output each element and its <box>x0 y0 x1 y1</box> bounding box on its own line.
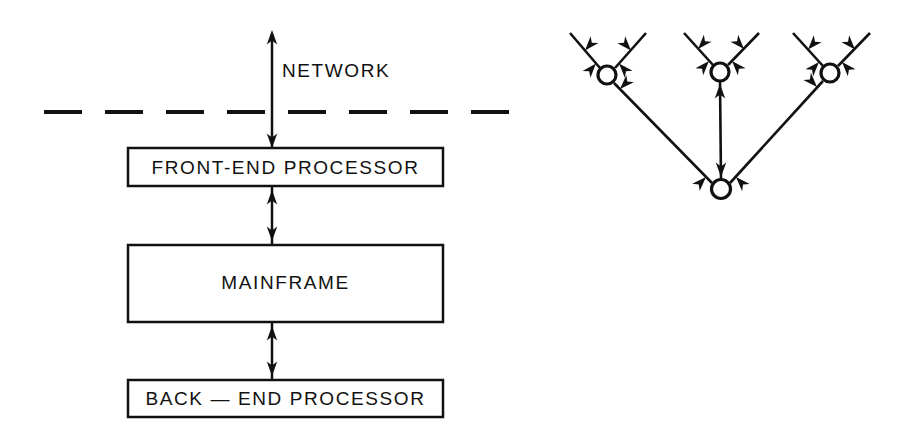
node-center[interactable] <box>711 63 729 81</box>
edge-noderight-root <box>730 81 823 183</box>
node-right[interactable] <box>821 64 839 82</box>
front-end-processor-box[interactable]: FRONT-END PROCESSOR <box>128 148 443 186</box>
network-label: NETWORK <box>282 60 390 81</box>
arrow-leaf5-out <box>804 35 821 53</box>
back-end-processor-label: BACK — END PROCESSOR <box>145 388 425 409</box>
arrow-nodeleft-up <box>616 75 634 93</box>
diagram-svg: NETWORK FRONT-END PROCESSOR MAINFRAME <box>0 0 914 447</box>
edge-leaf3-nodecenter <box>684 33 713 65</box>
figure-canvas: NETWORK FRONT-END PROCESSOR MAINFRAME <box>0 0 914 447</box>
arrow-leaf4-out <box>730 35 747 53</box>
edge-leaf2-nodeleft <box>615 33 646 68</box>
edge-nodecenter-root <box>720 81 721 180</box>
arrow-leaf4-in <box>728 58 745 76</box>
mainframe-box[interactable]: MAINFRAME <box>128 245 443 322</box>
arrow-nodeleft-down <box>692 173 710 191</box>
right-diagram <box>570 33 870 199</box>
arrow-leaf2-in <box>615 60 632 78</box>
edge-leaf4-nodecenter <box>728 33 759 65</box>
mainframe-label: MAINFRAME <box>221 272 349 293</box>
node-left[interactable] <box>598 66 616 84</box>
node-root[interactable] <box>712 180 731 199</box>
arrow-leaf2-out <box>617 36 634 54</box>
arrow-leaf6-out <box>841 35 858 53</box>
left-diagram: NETWORK FRONT-END PROCESSOR MAINFRAME <box>44 30 512 417</box>
edge-leaf6-noderight <box>838 33 870 66</box>
front-end-processor-label: FRONT-END PROCESSOR <box>152 157 420 178</box>
arrow-leaf6-in <box>838 59 855 77</box>
arrow-leaf3-out <box>694 35 711 53</box>
edge-nodeleft-root <box>614 83 712 183</box>
back-end-processor-box[interactable]: BACK — END PROCESSOR <box>128 380 443 417</box>
arrow-leaf1-out <box>581 36 598 54</box>
